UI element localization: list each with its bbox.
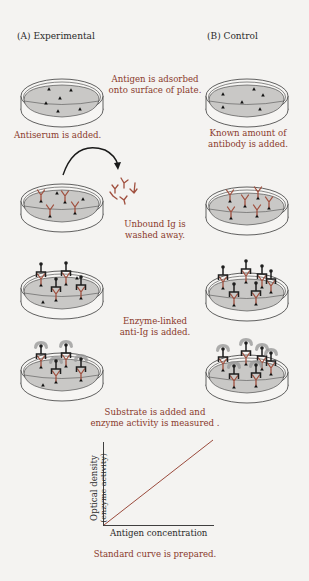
dish-control-enzyme	[206, 259, 288, 321]
caption-line: anti-Ig is added.	[110, 327, 200, 338]
caption-line: Unbound Ig is	[110, 219, 200, 230]
dish-experimental-antiserum	[21, 184, 103, 232]
caption-enzyme-linked: Enzyme-linked anti-Ig is added.	[110, 316, 200, 338]
caption-antigen-adsorbed: Antigen is adsorbed onto surface of plat…	[105, 74, 205, 96]
caption-standard-curve: Standard curve is prepared.	[85, 549, 225, 560]
caption-known-antibody: Known amount of antibody is added.	[198, 128, 298, 150]
dish-experimental-enzyme	[21, 261, 103, 319]
caption-line: Enzyme-linked	[110, 316, 200, 327]
unbound-antibodies	[110, 178, 137, 204]
wash-arrow	[63, 148, 118, 175]
dish-control-antibody	[206, 187, 288, 235]
y-label-line: (enzyme activity)	[99, 438, 109, 538]
caption-line: Substrate is added and	[85, 407, 225, 418]
dish-control-substrate	[206, 338, 288, 403]
caption-line: onto surface of plate.	[105, 85, 205, 96]
caption-unbound-washed: Unbound Ig is washed away.	[110, 219, 200, 241]
caption-line: antibody is added.	[198, 139, 298, 150]
standard-curve-chart	[103, 440, 214, 526]
caption-line: Known amount of	[198, 128, 298, 139]
dish-experimental-substrate	[21, 340, 103, 401]
caption-substrate-added: Substrate is added and enzyme activity i…	[85, 407, 225, 429]
caption-antiserum-added: Antiserum is added.	[14, 130, 104, 141]
caption-line: washed away.	[110, 230, 200, 241]
chart-y-axis-label: Optical density (enzyme activity)	[89, 438, 109, 538]
dish-experimental-antigen	[21, 79, 103, 127]
caption-line: Antigen is adsorbed	[105, 74, 205, 85]
y-label-line: Optical density	[89, 438, 99, 538]
caption-line: enzyme activity is measured .	[85, 418, 225, 429]
chart-x-axis-label: Antigen concentration	[110, 528, 207, 538]
dish-control-antigen	[206, 79, 288, 127]
standard-curve-line	[104, 440, 213, 525]
